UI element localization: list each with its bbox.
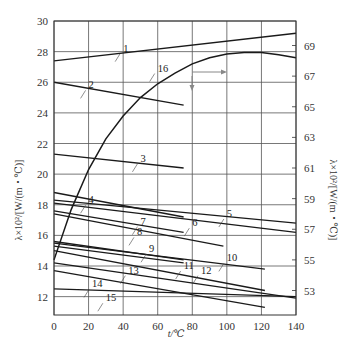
series-line-7 <box>54 211 184 232</box>
leader-line <box>132 164 137 172</box>
y-tick-label-right: 55 <box>304 254 316 266</box>
y-tick-label-right: 61 <box>304 162 315 174</box>
y-tick-label-left: 28 <box>37 46 49 58</box>
y-tick-label-right: 69 <box>304 40 316 52</box>
grid <box>54 21 296 315</box>
axis-indicator-arrow <box>190 70 228 92</box>
y-tick-label-left: 12 <box>37 291 48 303</box>
series-label-10: 10 <box>227 252 238 263</box>
y-tick-label-left: 20 <box>37 168 49 180</box>
y-tick-label-left: 24 <box>37 107 49 119</box>
series-label-14: 14 <box>92 278 103 289</box>
x-tick-label: 60 <box>152 320 164 332</box>
series-label-7: 7 <box>140 216 145 227</box>
y-tick-label-left: 30 <box>37 15 49 27</box>
leader-line <box>150 74 155 82</box>
series-label-13: 13 <box>128 265 139 276</box>
leader-line <box>98 303 103 311</box>
series-line-2 <box>54 82 184 105</box>
x-tick-label: 0 <box>51 320 57 332</box>
y-tick-label-left: 18 <box>37 199 49 211</box>
axis-ticks: 0204060801001201401214161820222426283053… <box>37 15 316 332</box>
series-label-6: 6 <box>192 217 197 228</box>
y-tick-label-right: 67 <box>304 70 316 82</box>
leader-line <box>129 237 134 245</box>
series-label-8: 8 <box>137 226 142 237</box>
series-line-1 <box>54 33 296 61</box>
leader-line <box>219 263 224 271</box>
y-tick-label-right: 59 <box>304 193 316 205</box>
series-label-16: 16 <box>158 63 169 74</box>
x-axis-title: t/℃ <box>168 328 185 339</box>
x-tick-label: 100 <box>219 320 236 332</box>
series-label-4: 4 <box>89 194 95 205</box>
y-tick-label-left: 16 <box>37 229 49 241</box>
y-axis-title-right: λ×10²/[W/(m・℃)] <box>327 160 339 241</box>
x-tick-label: 80 <box>187 320 199 332</box>
chart: 12345678910111213141516 0204060801001201… <box>0 0 341 357</box>
y-tick-label-right: 63 <box>304 131 316 143</box>
x-tick-label: 40 <box>118 320 130 332</box>
series-label-5: 5 <box>227 208 232 219</box>
series-label-9: 9 <box>149 243 154 254</box>
series-line-6 <box>54 203 296 232</box>
y-tick-label-left: 22 <box>37 138 48 150</box>
y-tick-label-right: 57 <box>304 223 316 235</box>
y-tick-label-left: 14 <box>37 260 49 272</box>
x-tick-label: 140 <box>288 320 305 332</box>
series-label-11: 11 <box>184 260 194 271</box>
series-label-15: 15 <box>106 292 117 303</box>
series-label-2: 2 <box>89 79 94 90</box>
y-tick-label-right: 53 <box>304 285 316 297</box>
y-tick-label-left: 26 <box>37 76 49 88</box>
series-line-3 <box>54 154 184 168</box>
series-label-1: 1 <box>123 43 128 54</box>
series-label-3: 3 <box>140 153 145 164</box>
leader-line <box>115 54 120 62</box>
x-tick-label: 20 <box>83 320 95 332</box>
plot-frame <box>54 21 296 315</box>
leader-line <box>81 90 86 98</box>
y-axis-title-left: λ×10²/[W/(m・℃)] <box>13 160 25 241</box>
x-tick-label: 120 <box>253 320 270 332</box>
y-tick-label-right: 65 <box>304 101 316 113</box>
series-label-12: 12 <box>201 265 212 276</box>
